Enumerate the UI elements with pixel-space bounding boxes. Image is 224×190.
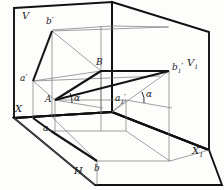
- label-plane-h: H: [74, 166, 83, 176]
- label-axis-x: X: [15, 104, 22, 114]
- axis-x-line: [14, 112, 112, 118]
- label-angle-alpha-left: α: [74, 94, 80, 103]
- label-axis-x1-subscript: 1: [199, 151, 203, 158]
- front-projection-ab: [33, 31, 52, 81]
- geometry-figure: V V1 H X X1 b′ a′ B A b1′ a1′ a b α α: [0, 0, 224, 190]
- alpha-right-arc: [142, 92, 144, 103]
- label-point-b-plan: b: [94, 164, 100, 173]
- label-point-a1-front: a1′: [115, 94, 126, 105]
- label-point-b-front: b′: [46, 17, 54, 26]
- label-b1-front-prime: ′: [181, 62, 183, 72]
- label-axis-x1: X1: [192, 146, 203, 158]
- label-point-a-plan: a: [43, 124, 48, 133]
- label-plane-v1-subscript: 1: [194, 63, 198, 70]
- plane-v1-outline: [112, 2, 209, 150]
- figure-canvas: [0, 0, 224, 190]
- label-plane-v: V: [22, 11, 29, 21]
- label-point-b1-front: b1′: [172, 63, 183, 74]
- label-b-front-prime: ′: [52, 16, 54, 26]
- label-a-front-prime: ′: [25, 73, 27, 83]
- label-angle-alpha-right: α: [146, 90, 152, 99]
- alpha-left-arc: [70, 93, 72, 103]
- plan-projection-ab: [51, 131, 97, 161]
- label-point-B: B: [96, 58, 103, 67]
- label-a1-front-prime: ′: [124, 93, 126, 103]
- label-point-a-front: a′: [20, 74, 27, 83]
- label-point-A: A: [45, 95, 52, 104]
- label-plane-v1: V1: [187, 58, 198, 70]
